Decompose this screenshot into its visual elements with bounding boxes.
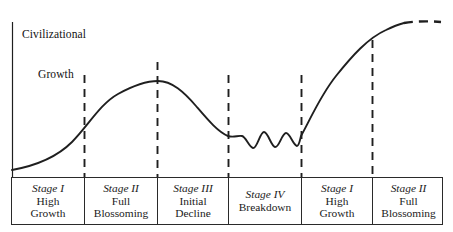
stage-cell-4: Stage IV Breakdown bbox=[229, 178, 302, 224]
stage-roman-1: Stage I bbox=[32, 182, 64, 195]
stage-desc-6: Full Blossoming bbox=[381, 195, 435, 220]
stage-roman-3: Stage III bbox=[173, 182, 213, 195]
stage-desc-1: High Growth bbox=[31, 195, 66, 220]
stage-desc-2: Full Blossoming bbox=[94, 195, 148, 220]
growth-curve-solid bbox=[12, 23, 404, 170]
stage-cell-6: Stage II Full Blossoming bbox=[373, 178, 444, 224]
stage-cell-5: Stage I High Growth bbox=[302, 178, 373, 224]
stage-desc-5: High Growth bbox=[320, 195, 355, 220]
stage-divider-lines bbox=[85, 40, 373, 177]
stage-label-table: Stage I High Growth Stage II Full Blosso… bbox=[11, 177, 443, 225]
stage-cell-1: Stage I High Growth bbox=[12, 178, 85, 224]
stage-roman-5: Stage I bbox=[321, 182, 353, 195]
stage-desc-4: Breakdown bbox=[239, 201, 292, 214]
stage-roman-2: Stage II bbox=[103, 182, 139, 195]
stage-desc-3: Initial Decline bbox=[175, 195, 210, 220]
stage-roman-6: Stage II bbox=[391, 182, 427, 195]
stage-cell-3: Stage III Initial Decline bbox=[158, 178, 229, 224]
stage-cell-2: Stage II Full Blossoming bbox=[85, 178, 158, 224]
stage-roman-4: Stage IV bbox=[246, 188, 285, 201]
growth-curve-projected-dashed bbox=[404, 21, 441, 23]
civilizational-growth-diagram: Civilizational Growth Stage I High Growt… bbox=[0, 0, 453, 232]
